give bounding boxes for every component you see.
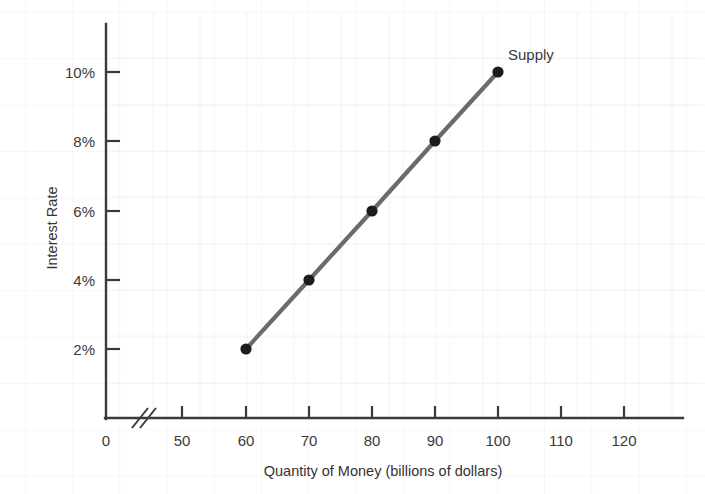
y-tick-label-4: 4%	[73, 272, 95, 289]
grid-lines	[110, 12, 700, 418]
data-point	[366, 205, 377, 216]
y-tick-label-6: 6%	[73, 203, 95, 220]
y-axis-title: Interest Rate	[44, 186, 60, 269]
x-tick-label-0: 0	[102, 432, 110, 449]
x-tick-label-50: 50	[174, 432, 191, 449]
x-tick-label-120: 120	[611, 432, 636, 449]
data-point	[492, 66, 503, 77]
x-tick-label-110: 110	[549, 432, 573, 449]
data-point	[429, 135, 440, 146]
x-tick-label-70: 70	[301, 432, 318, 449]
x-tick-label-80: 80	[364, 432, 381, 449]
y-tick-label-10: 10%	[65, 64, 95, 81]
axis-lines	[105, 24, 683, 419]
data-point	[303, 274, 314, 285]
supply-series-label: Supply	[508, 46, 554, 63]
x-axis-title: Quantity of Money (billions of dollars)	[264, 463, 503, 479]
y-tick-marks	[106, 72, 120, 349]
x-tick-label-90: 90	[427, 432, 444, 449]
x-tick-label-100: 100	[485, 432, 510, 449]
x-tick-marks	[182, 406, 624, 418]
x-tick-label-60: 60	[238, 432, 255, 449]
chart-canvas: 0 50 60 70 80 90 100 110 120 2% 4% 6% 8%…	[0, 0, 705, 494]
y-tick-labels: 2% 4% 6% 8% 10%	[65, 64, 95, 358]
data-point	[240, 343, 251, 354]
x-tick-labels: 0 50 60 70 80 90 100 110 120	[102, 432, 637, 449]
y-tick-label-2: 2%	[73, 341, 95, 358]
y-tick-label-8: 8%	[73, 133, 95, 150]
supply-curve-chart: 0 50 60 70 80 90 100 110 120 2% 4% 6% 8%…	[0, 0, 705, 494]
